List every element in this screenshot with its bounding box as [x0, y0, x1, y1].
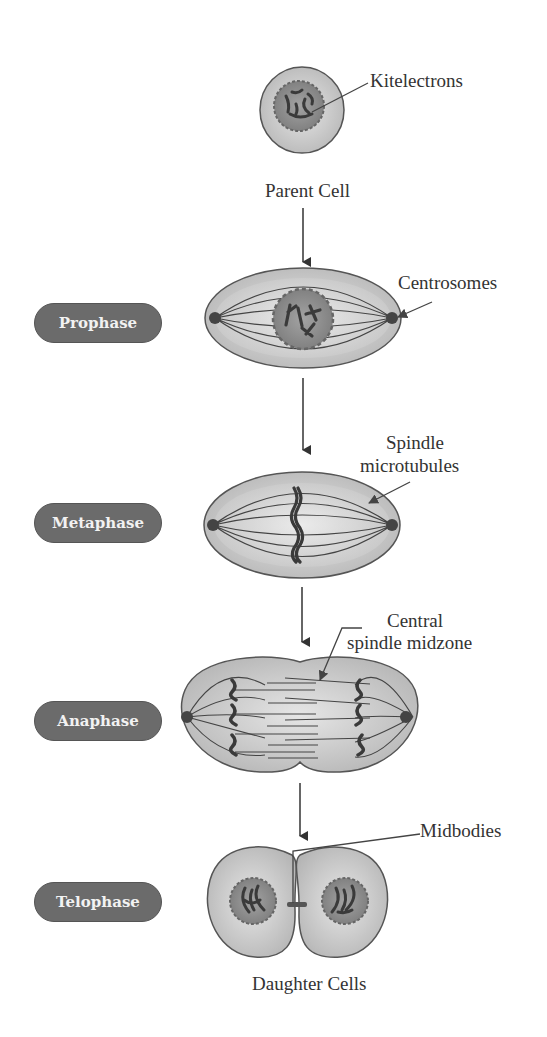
stage-label-anaphase: Anaphase — [34, 701, 162, 741]
label-midzone-line1: Central — [387, 610, 443, 632]
label-spindle-line2: microtubules — [360, 455, 459, 477]
parent-cell — [260, 67, 368, 153]
label-centrosomes: Centrosomes — [398, 272, 497, 294]
caption-parent-cell: Parent Cell — [265, 180, 350, 202]
telophase-cells — [207, 834, 420, 957]
label-midbodies: Midbodies — [420, 820, 501, 842]
label-spindle-line1: Spindle — [386, 432, 444, 454]
stage-label-prophase: Prophase — [34, 303, 162, 343]
label-kitelectrons: Kitelectrons — [370, 70, 463, 92]
stage-label-telophase: Telophase — [34, 882, 162, 922]
metaphase-cell — [204, 472, 410, 578]
label-midzone-line2: spindle midzone — [347, 632, 472, 654]
stage-label-metaphase: Metaphase — [34, 503, 162, 543]
caption-daughter-cells: Daughter Cells — [252, 973, 367, 995]
